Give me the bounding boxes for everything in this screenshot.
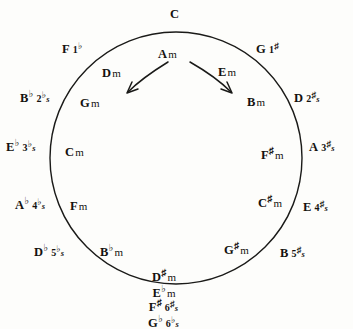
minor-key-Eflatm: E♭m (152, 284, 176, 300)
minor-key-C#m-root: C (258, 196, 267, 210)
minor-key-G#m-accidental: ♯ (234, 240, 239, 251)
minor-key-G#m-root: G (224, 243, 234, 257)
minor-key-Bm-suffix: m (257, 96, 266, 108)
major-key-Gflat-count-plural: s (176, 319, 180, 329)
major-key-Gflat-root: G (148, 316, 158, 329)
minor-key-Bbm-accidental: ♭ (109, 242, 114, 253)
major-key-Db: D♭5♭s (34, 243, 64, 259)
major-key-B: B5♯s (280, 244, 305, 260)
minor-key-Bm: Bm (247, 93, 265, 109)
major-key-Ab-count: 4♭s (32, 200, 45, 211)
major-key-Bb-count: 2♭s (36, 93, 49, 104)
major-key-B-root: B (280, 246, 289, 260)
minor-key-Dm-suffix: m (112, 67, 121, 79)
minor-key-Dm-root: D (102, 66, 111, 80)
minor-key-Gm: Gm (80, 94, 100, 110)
major-key-F-root: F (62, 42, 70, 56)
major-key-Fsharp-count-plural: s (175, 303, 179, 313)
major-key-Eb-accidental: ♭ (15, 137, 20, 148)
bottom-outside-enharmonic-majors: F♯6♯s G♭6♭s (148, 298, 179, 329)
minor-key-Fm: Fm (70, 197, 88, 213)
arrow-counterclockwise-path (128, 62, 168, 92)
major-key-Bb: B♭2♭s (20, 89, 50, 105)
minor-key-Am-root: A (158, 47, 167, 61)
major-key-F-count-sign: ♭ (78, 41, 82, 51)
major-key-F-count: 1♭ (73, 44, 83, 55)
minor-key-G#m-suffix: m (240, 244, 249, 256)
major-key-D-count: 2♯s (306, 93, 319, 104)
minor-key-Fm-suffix: m (79, 200, 88, 212)
minor-key-C#m: C♯m (258, 194, 282, 210)
major-key-A-count-plural: s (331, 143, 335, 153)
major-key-Ab-accidental: ♭ (24, 195, 29, 206)
circle-of-fifths-diagram: C F1♭G1♯B♭2♭sD2♯sE♭3♭sA3♯sA♭4♭sE4♯sD♭5♭s… (0, 0, 353, 329)
minor-key-Em: Em (218, 63, 236, 79)
major-key-D-count-plural: s (316, 94, 320, 104)
major-key-C-root: C (170, 7, 179, 21)
major-key-A-count: 3♯s (321, 142, 334, 153)
major-key-Gflat-count: 6♭s (166, 318, 179, 329)
major-key-E: E4♯s (303, 198, 328, 214)
minor-key-Bbm: B♭m (100, 243, 123, 259)
major-key-B-count: 5♯s (292, 248, 305, 259)
major-key-D: D2♯s (294, 89, 320, 105)
minor-key-Gm-suffix: m (91, 97, 100, 109)
major-key-C: C (170, 8, 179, 21)
major-key-Eb-count: 3♭s (22, 142, 35, 153)
minor-key-Dsharpm-accidental: ♯ (161, 267, 166, 278)
major-key-E-root: E (303, 200, 312, 214)
minor-key-F#m-accidental: ♯ (269, 145, 274, 156)
major-key-G-root: G (256, 42, 266, 56)
minor-key-Bm-root: B (247, 95, 256, 109)
major-key-G: G1♯ (256, 40, 279, 56)
minor-key-Em-suffix: m (228, 66, 237, 78)
major-key-Bb-count-plural: s (46, 94, 50, 104)
minor-key-Fm-root: F (70, 199, 78, 213)
major-key-Fsharp-root: F (149, 300, 157, 314)
minor-key-Am: Am (158, 45, 177, 61)
major-key-B-count-plural: s (301, 249, 305, 259)
major-key-F: F1♭ (62, 40, 83, 56)
bottom-inside-enharmonic-minors: D♯m E♭m (152, 268, 176, 299)
major-key-A-root: A (309, 140, 318, 154)
major-key-A: A3♯s (309, 138, 335, 154)
minor-key-Dsharpm-suffix: m (167, 271, 176, 283)
minor-key-Em-root: E (218, 65, 227, 79)
major-key-Ab: A♭4♭s (15, 196, 45, 212)
major-key-Bb-root: B (20, 91, 29, 105)
minor-key-Dsharpm-root: D (152, 270, 161, 284)
major-key-Bb-accidental: ♭ (29, 88, 34, 99)
minor-key-Cm: Cm (65, 143, 84, 159)
minor-key-Cm-root: C (65, 145, 74, 159)
major-key-E-count: 4♯s (315, 202, 328, 213)
minor-key-Dsharpm: D♯m (152, 268, 176, 284)
minor-key-Am-suffix: m (168, 48, 177, 60)
major-key-Gflat-accidental: ♭ (158, 313, 163, 324)
major-key-Fsharp: F♯6♯s (148, 298, 179, 314)
major-key-Ab-root: A (15, 198, 24, 212)
minor-key-C#m-accidental: ♯ (267, 193, 272, 204)
minor-key-Eflatm-accidental: ♭ (161, 283, 166, 294)
major-key-Eb-count-plural: s (32, 143, 36, 153)
major-key-Db-count: 5♭s (51, 247, 64, 258)
major-key-Fsharp-accidental: ♯ (157, 297, 162, 308)
minor-key-Eflatm-suffix: m (167, 287, 176, 299)
minor-key-Bbm-suffix: m (114, 246, 123, 258)
major-key-Fsharp-count: 6♯s (165, 302, 178, 313)
major-key-E-count-plural: s (324, 203, 328, 213)
major-key-D-root: D (294, 91, 303, 105)
major-key-G-count: 1♯ (269, 44, 279, 55)
major-key-Eb: E♭3♭s (6, 138, 36, 154)
major-key-Db-root: D (34, 245, 43, 259)
major-key-G-count-sign: ♯ (274, 41, 279, 51)
major-key-Db-count-plural: s (61, 248, 65, 258)
major-key-Eb-root: E (6, 140, 15, 154)
major-key-Gflat: G♭6♭s (148, 314, 179, 329)
minor-key-G#m: G♯m (224, 241, 249, 257)
minor-key-Bbm-root: B (100, 245, 109, 259)
minor-key-Cm-suffix: m (75, 146, 84, 158)
major-key-Ab-count-plural: s (42, 201, 46, 211)
minor-key-F#m: F♯m (261, 146, 284, 162)
minor-key-Dm: Dm (102, 64, 121, 80)
minor-key-C#m-suffix: m (273, 197, 282, 209)
